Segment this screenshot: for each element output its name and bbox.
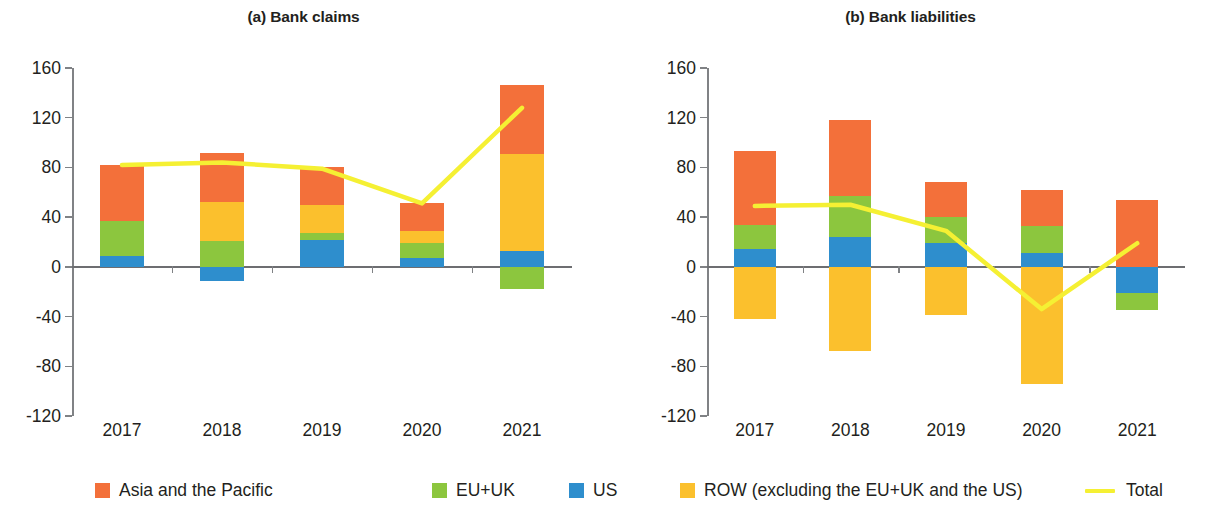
y-axis-tick xyxy=(700,316,707,317)
y-axis-tick-label: 0 xyxy=(51,256,61,277)
legend-item[interactable]: EU+UK xyxy=(432,480,515,501)
x-axis-tick xyxy=(898,266,899,273)
bar-segment xyxy=(1116,200,1158,267)
bar-segment xyxy=(829,120,871,196)
legend-color-swatch-icon xyxy=(680,483,695,498)
bar-segment xyxy=(400,203,444,230)
bar-segment xyxy=(1116,293,1158,310)
x-axis-tick-label: 2021 xyxy=(1118,420,1157,441)
figure-bank-claims-and-liabilities: (a) Bank claims -120-80-4004080120160201… xyxy=(0,0,1214,513)
y-axis-tick-label: -40 xyxy=(671,306,696,327)
bar-segment xyxy=(734,151,776,224)
y-axis-tick-label: -80 xyxy=(671,356,696,377)
bar-segment xyxy=(400,243,444,258)
y-axis-line xyxy=(72,68,74,416)
x-axis-tick-label: 2018 xyxy=(203,420,242,441)
bar-segment xyxy=(500,154,544,251)
bar-segment xyxy=(400,258,444,267)
y-axis-tick-label: 160 xyxy=(32,58,61,79)
y-axis-tick-label: 80 xyxy=(677,157,696,178)
x-axis-tick xyxy=(372,266,373,273)
y-axis-tick-label: 120 xyxy=(32,107,61,128)
bar-segment xyxy=(829,237,871,267)
legend-item[interactable]: Total xyxy=(1085,480,1163,501)
bar-segment xyxy=(1021,190,1063,226)
bar-segment xyxy=(925,267,967,315)
panel-title-b: (b) Bank liabilities xyxy=(607,8,1214,26)
bar-segment xyxy=(100,165,144,221)
legend-item-label: US xyxy=(593,480,617,501)
legend-item[interactable]: Asia and the Pacific xyxy=(95,480,273,501)
bar-segment xyxy=(300,205,344,234)
bar-segment xyxy=(925,217,967,243)
bar-segment xyxy=(1116,267,1158,293)
bar-segment xyxy=(1021,226,1063,253)
y-axis-tick-label: -120 xyxy=(26,406,61,427)
legend-item-label: ROW (excluding the EU+UK and the US) xyxy=(704,480,1023,501)
bar-segment xyxy=(829,267,871,352)
y-axis-tick-label: 0 xyxy=(686,256,696,277)
legend-item-label: Asia and the Pacific xyxy=(119,480,273,501)
bar-segment xyxy=(500,251,544,267)
legend-color-swatch-icon xyxy=(569,483,584,498)
x-axis-tick-label: 2020 xyxy=(403,420,442,441)
bar-segment xyxy=(925,182,967,217)
bar-segment xyxy=(200,241,244,267)
x-axis-tick-label: 2018 xyxy=(831,420,870,441)
legend-item[interactable]: ROW (excluding the EU+UK and the US) xyxy=(680,480,1023,501)
y-axis-tick xyxy=(65,316,72,317)
bar-segment xyxy=(925,243,967,267)
y-axis-line xyxy=(707,68,709,416)
chart-legend: Asia and the PacificEU+UKUSROW (excludin… xyxy=(0,472,1214,513)
y-axis-tick-label: -120 xyxy=(661,406,696,427)
bar-segment xyxy=(100,256,144,267)
bar-segment xyxy=(734,225,776,250)
y-axis-tick xyxy=(65,266,72,267)
y-axis-tick xyxy=(700,67,707,68)
y-axis-tick xyxy=(700,216,707,217)
bar-segment xyxy=(300,167,344,204)
x-axis-tick-label: 2019 xyxy=(303,420,342,441)
bar-segment xyxy=(1021,267,1063,384)
y-axis-tick-label: 40 xyxy=(42,207,61,228)
x-axis-tick-label: 2021 xyxy=(503,420,542,441)
y-axis-tick-label: 80 xyxy=(42,157,61,178)
y-axis-tick xyxy=(700,366,707,367)
bar-segment xyxy=(829,196,871,237)
bar-segment xyxy=(200,267,244,281)
bar-segment xyxy=(200,153,244,203)
legend-item[interactable]: US xyxy=(569,480,617,501)
bar-segment xyxy=(500,85,544,153)
x-axis-tick-label: 2017 xyxy=(103,420,142,441)
panel-title-a: (a) Bank claims xyxy=(0,8,607,26)
y-axis-tick xyxy=(700,117,707,118)
bar-segment xyxy=(734,249,776,266)
y-axis-tick xyxy=(700,167,707,168)
y-axis-tick-label: -40 xyxy=(36,306,61,327)
x-axis-tick xyxy=(1089,266,1090,273)
bar-segment xyxy=(100,221,144,256)
x-axis-tick-label: 2017 xyxy=(735,420,774,441)
legend-item-label: Total xyxy=(1126,480,1163,501)
y-axis-tick xyxy=(65,415,72,416)
x-axis-tick xyxy=(172,266,173,273)
x-axis-tick-label: 2019 xyxy=(927,420,966,441)
bar-segment xyxy=(200,202,244,241)
legend-color-swatch-icon xyxy=(95,483,110,498)
plot-area-bank-claims: -120-80-40040801201602017201820192020202… xyxy=(72,68,572,416)
y-axis-tick-label: 120 xyxy=(667,107,696,128)
bar-segment xyxy=(500,267,544,289)
legend-line-swatch-icon xyxy=(1085,489,1115,493)
x-axis-tick-label: 2020 xyxy=(1022,420,1061,441)
plot-area-bank-liabilities: -120-80-40040801201602017201820192020202… xyxy=(707,68,1185,416)
y-axis-tick xyxy=(65,216,72,217)
y-axis-tick xyxy=(65,167,72,168)
bar-segment xyxy=(1021,253,1063,267)
y-axis-tick xyxy=(700,415,707,416)
bar-segment xyxy=(400,231,444,243)
x-axis-tick xyxy=(994,266,995,273)
y-axis-tick xyxy=(65,67,72,68)
y-axis-tick-label: 40 xyxy=(677,207,696,228)
bar-segment xyxy=(300,240,344,267)
bar-segment xyxy=(300,233,344,239)
